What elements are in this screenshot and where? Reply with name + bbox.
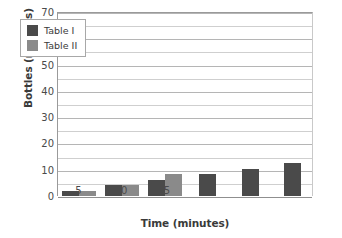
legend-label: Table II bbox=[44, 41, 77, 51]
legend-swatch-icon bbox=[27, 40, 38, 51]
y-tick-label: 20 bbox=[14, 139, 54, 149]
chart-legend: Table ITable II bbox=[20, 19, 86, 57]
legend-entry: Table I bbox=[27, 25, 77, 36]
y-tick-label: 0 bbox=[14, 192, 54, 202]
gridline-major bbox=[58, 13, 312, 14]
x-tick-label: 25 bbox=[243, 186, 256, 196]
bar-chart: Bottles (millions) 010203040506070 51015… bbox=[0, 0, 342, 238]
x-axis-title: Time (minutes) bbox=[57, 217, 313, 229]
legend-swatch-icon bbox=[27, 25, 38, 36]
legend-label: Table I bbox=[44, 26, 74, 36]
gridline-minor bbox=[58, 131, 312, 132]
x-tick-label: 20 bbox=[200, 186, 213, 196]
legend-entry: Table II bbox=[27, 40, 77, 51]
gridline-minor bbox=[58, 79, 312, 80]
gridline-minor bbox=[58, 158, 312, 159]
gridline-major bbox=[58, 92, 312, 93]
gridline-major bbox=[58, 144, 312, 145]
gridline-major bbox=[58, 39, 312, 40]
x-tick-label: 30 bbox=[285, 186, 298, 196]
gridline-major bbox=[58, 171, 312, 172]
x-tick-label: 10 bbox=[115, 186, 128, 196]
y-tick-label: 50 bbox=[14, 61, 54, 71]
plot-area: 010203040506070 bbox=[57, 12, 313, 196]
gridline-minor bbox=[58, 52, 312, 53]
x-tick-label: 5 bbox=[75, 186, 81, 196]
gridline-minor bbox=[58, 26, 312, 27]
gridline-major bbox=[58, 66, 312, 67]
x-tick-label: 15 bbox=[157, 186, 170, 196]
gridline-minor bbox=[58, 105, 312, 106]
y-tick-label: 30 bbox=[14, 113, 54, 123]
gridline-major bbox=[58, 118, 312, 119]
y-tick-label: 40 bbox=[14, 87, 54, 97]
gridline-minor bbox=[58, 184, 312, 185]
bar bbox=[79, 191, 96, 196]
y-tick-label: 70 bbox=[14, 8, 54, 18]
axis-baseline bbox=[58, 197, 312, 198]
y-tick-label: 10 bbox=[14, 166, 54, 176]
